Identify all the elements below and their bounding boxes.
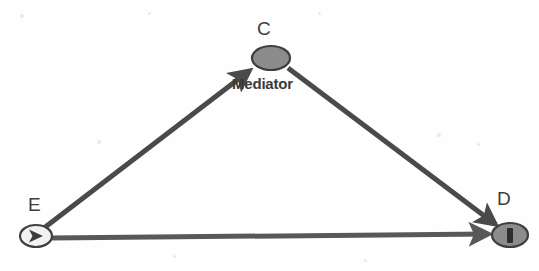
scan-speck <box>477 143 480 146</box>
edge-label-mediator: Mediator <box>232 76 293 91</box>
node-label-d: D <box>497 189 511 208</box>
node-label-e: E <box>28 195 41 214</box>
node-c-ellipse <box>252 46 290 70</box>
scan-speck <box>437 133 441 137</box>
edges-group <box>44 68 495 238</box>
scan-speck <box>173 255 176 258</box>
scan-speck <box>97 140 101 144</box>
bar-vertical-icon <box>507 228 513 243</box>
path-diagram-svg <box>0 0 539 271</box>
scan-speck <box>318 12 321 15</box>
scan-speck <box>20 14 24 18</box>
node-label-c: C <box>257 19 271 38</box>
edge-e-to-d <box>50 234 488 238</box>
diagram-canvas: E C D Mediator <box>0 0 539 271</box>
edge-c-to-d <box>288 68 495 224</box>
scan-speck <box>364 259 367 262</box>
edge-e-to-c <box>44 71 249 228</box>
scan-speck <box>148 12 151 15</box>
